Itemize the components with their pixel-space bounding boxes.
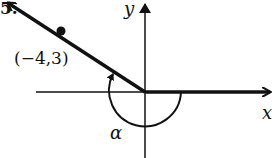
coordinate-plane <box>0 0 276 158</box>
problem-number: 5. <box>0 0 18 17</box>
point-marker <box>57 27 66 36</box>
angle-label: α <box>110 124 122 142</box>
x-axis-label: x <box>262 104 272 122</box>
point-label: (−4,3) <box>14 50 69 67</box>
y-axis-label: y <box>124 0 134 18</box>
